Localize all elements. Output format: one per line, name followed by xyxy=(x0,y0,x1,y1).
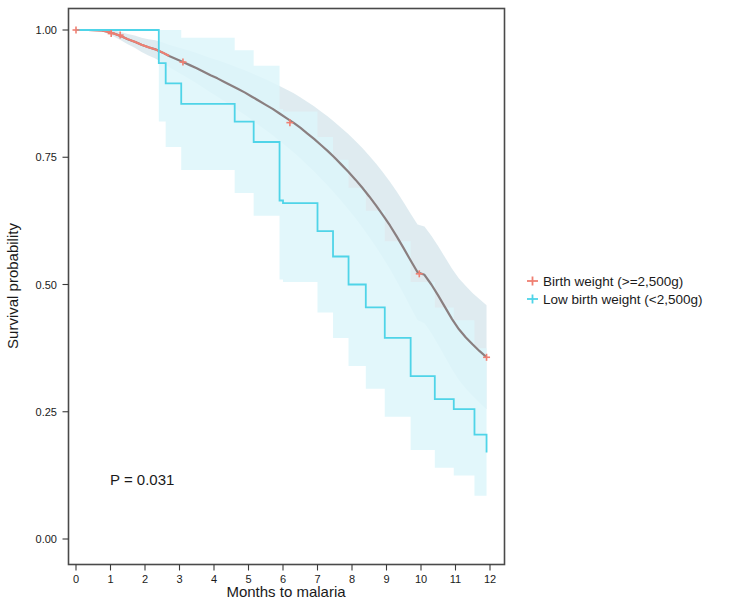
legend: Birth weight (>=2,500g)Low birth weight … xyxy=(527,274,702,307)
x-tick-label: 11 xyxy=(450,573,461,585)
legend-item[interactable]: Birth weight (>=2,500g) xyxy=(527,274,683,289)
y-axis-ticks: 0.000.250.500.751.00 xyxy=(36,24,69,545)
x-axis-ticks: 0123456789101112 xyxy=(73,565,496,586)
x-tick-label: 9 xyxy=(383,573,389,585)
plot-canvas: 0123456789101112 0.000.250.500.751.00 Mo… xyxy=(0,0,740,603)
x-tick-label: 2 xyxy=(142,573,148,585)
x-tick-label: 12 xyxy=(484,573,496,585)
p-value-annotation: P = 0.031 xyxy=(110,471,174,488)
y-tick-label: 0.25 xyxy=(36,406,57,418)
confidence-bands-group xyxy=(76,30,487,496)
y-axis-title: Survival probability xyxy=(4,223,21,349)
y-tick-label: 1.00 xyxy=(36,24,57,36)
y-tick-label: 0.75 xyxy=(36,151,57,163)
x-tick-label: 10 xyxy=(415,573,427,585)
legend-item[interactable]: Low birth weight (<2,500g) xyxy=(527,292,702,307)
legend-item-label: Low birth weight (<2,500g) xyxy=(543,292,702,307)
x-tick-label: 1 xyxy=(107,573,113,585)
legend-item-label: Birth weight (>=2,500g) xyxy=(543,274,683,289)
legend-plus-icon xyxy=(527,277,538,286)
x-tick-label: 4 xyxy=(211,573,217,585)
x-axis-title: Months to malaria xyxy=(226,583,346,600)
x-tick-label: 3 xyxy=(176,573,182,585)
legend-plus-icon xyxy=(527,295,538,304)
y-tick-label: 0.00 xyxy=(36,533,57,545)
y-tick-label: 0.50 xyxy=(36,279,57,291)
x-tick-label: 8 xyxy=(349,573,355,585)
x-tick-label: 0 xyxy=(73,573,79,585)
censor-plus-icon xyxy=(73,27,80,34)
survival-chart-figure: 0123456789101112 0.000.250.500.751.00 Mo… xyxy=(0,0,740,603)
